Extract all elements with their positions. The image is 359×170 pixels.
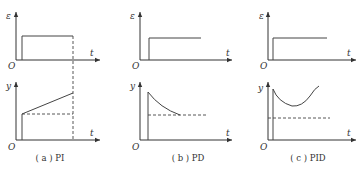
panel-b-input-plot: ε t O	[130, 11, 232, 71]
origin-label: O	[8, 142, 16, 152]
origin-label: O	[260, 142, 268, 152]
origin-label: O	[132, 142, 140, 152]
panel-c-input-plot: ε t O	[259, 11, 356, 71]
panel-c-caption: ( c ) PID	[290, 153, 326, 163]
controller-step-response-diagram: ε t O y t O ( a ) PI ε t O	[0, 0, 359, 170]
panel-c-output-plot: y t O	[257, 82, 356, 152]
panel-b-output-plot: y t O	[129, 81, 232, 152]
y-axis-label: y	[257, 83, 264, 93]
y-axis-label: y	[5, 81, 12, 91]
panel-b-caption: ( b ) PD	[172, 153, 205, 163]
y-axis-label: ε	[6, 11, 11, 21]
y-axis-label: ε	[259, 11, 264, 21]
panel-b: ε t O y t O ( b ) PD	[129, 11, 232, 163]
y-axis-label: ε	[130, 11, 135, 21]
x-axis-label: t	[226, 48, 230, 58]
x-axis-label: t	[90, 48, 94, 58]
panel-a-output-plot: y t O	[5, 81, 100, 152]
x-axis-label: t	[347, 128, 351, 138]
x-axis-label: t	[347, 48, 351, 58]
origin-label: O	[260, 61, 268, 71]
x-axis-label: t	[90, 128, 94, 138]
panel-a-input-plot: ε t O	[6, 11, 100, 71]
x-axis-label: t	[226, 128, 230, 138]
panel-a-caption: ( a ) PI	[36, 153, 65, 163]
panel-a: ε t O y t O ( a ) PI	[5, 11, 100, 163]
y-axis-label: y	[129, 81, 136, 91]
panel-c: ε t O y t O ( c ) PID	[257, 11, 356, 163]
origin-label: O	[132, 61, 140, 71]
origin-label: O	[8, 61, 16, 71]
